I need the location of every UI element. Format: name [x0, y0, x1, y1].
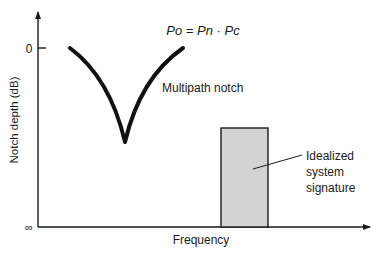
signature-label-line3: signature [306, 181, 356, 195]
notch-diagram: 0 ∞ Notch depth (dB) Frequency Po = Pn ·… [0, 0, 380, 255]
y-tick-zero-label: 0 [26, 42, 33, 56]
multipath-notch-curve [70, 48, 183, 142]
signature-label-line2: system [306, 165, 344, 179]
notch-label: Multipath notch [162, 81, 243, 95]
formula: Po = Pn · Pc [166, 23, 240, 38]
y-tick-infinity-label: ∞ [25, 221, 33, 233]
x-axis-label: Frequency [173, 233, 230, 247]
signature-label-line1: Idealized [306, 149, 354, 163]
y-axis-label: Notch depth (dB) [8, 76, 20, 163]
system-signature-bar [221, 128, 268, 227]
